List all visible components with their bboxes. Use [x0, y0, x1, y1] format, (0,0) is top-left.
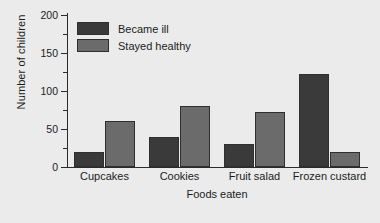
x-axis-category-label: Frozen custard — [292, 170, 367, 182]
x-axis-category-label: Cookies — [142, 170, 217, 182]
bar — [255, 112, 285, 167]
bar — [105, 121, 135, 167]
legend-swatch — [77, 39, 109, 52]
bar — [149, 137, 179, 167]
bar — [180, 106, 210, 167]
x-axis-category-label: Cupcakes — [67, 170, 142, 182]
y-tick-label: 50 — [46, 123, 58, 135]
y-axis-title: Number of children — [15, 0, 27, 127]
y-tick-label: 200 — [40, 9, 58, 21]
y-tick-label-wrap: 0 — [18, 167, 58, 168]
x-axis-category-label: Fruit salad — [217, 170, 292, 182]
x-axis-title: Foods eaten — [67, 188, 367, 200]
legend-swatch — [77, 22, 109, 35]
chart-legend: Became illStayed healthy — [77, 21, 191, 55]
bar — [224, 144, 254, 167]
y-tick-major — [61, 167, 67, 168]
x-axis-line — [67, 167, 368, 168]
legend-label: Became ill — [118, 23, 169, 35]
legend-label: Stayed healthy — [118, 40, 191, 52]
legend-item: Stayed healthy — [77, 38, 191, 53]
y-tick-label-wrap: 50 — [18, 129, 58, 130]
bar-chart: Number of children 050100150200 Cupcakes… — [0, 0, 380, 223]
y-tick-label-wrap: 150 — [18, 53, 58, 54]
y-tick-label-wrap: 200 — [18, 15, 58, 16]
bar — [299, 74, 329, 167]
bar — [330, 152, 360, 167]
legend-item: Became ill — [77, 21, 191, 36]
y-tick-label: 100 — [40, 85, 58, 97]
y-tick-label-wrap: 100 — [18, 91, 58, 92]
y-tick-label: 150 — [40, 47, 58, 59]
y-tick-label: 0 — [52, 161, 58, 173]
bar — [74, 152, 104, 167]
